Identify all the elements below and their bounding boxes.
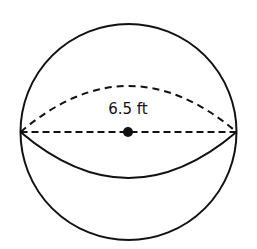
equator-front-arc [21, 132, 237, 178]
sphere-drawing [0, 0, 257, 249]
center-point [123, 127, 133, 137]
sphere-diagram: 6.5 ft [0, 0, 257, 249]
radius-label: 6.5 ft [78, 100, 178, 118]
